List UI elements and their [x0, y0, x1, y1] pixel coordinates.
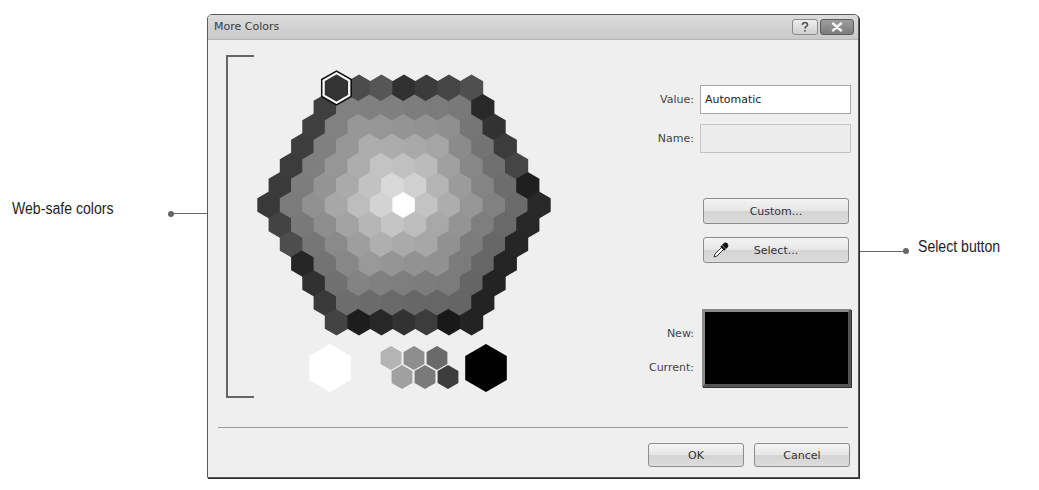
- ok-button-label: OK: [688, 449, 704, 462]
- callout-select-button: Select button: [918, 238, 1000, 256]
- gray-hex[interactable]: [392, 365, 413, 389]
- color-preview-swatch: [702, 309, 851, 387]
- value-label: Value:: [648, 93, 694, 106]
- more-colors-dialog: More Colors Value: Automatic Name: Custo…: [207, 14, 859, 478]
- custom-button-label: Custom...: [750, 205, 803, 218]
- name-label: Name:: [648, 132, 694, 145]
- callout-web-safe-colors: Web-safe colors: [12, 200, 113, 218]
- footer-divider: [218, 427, 848, 428]
- callout-right-dot: [903, 248, 909, 254]
- current-label: Current:: [628, 361, 694, 374]
- select-button[interactable]: Select...: [703, 237, 849, 263]
- select-button-label: Select...: [754, 244, 798, 257]
- gray-hex[interactable]: [404, 346, 425, 370]
- callout-left-dot: [168, 211, 174, 217]
- gray-hex[interactable]: [381, 346, 402, 370]
- value-field[interactable]: Automatic: [700, 85, 851, 114]
- cancel-button[interactable]: Cancel: [754, 443, 850, 467]
- name-field[interactable]: [700, 124, 851, 153]
- new-label: New:: [628, 327, 694, 340]
- custom-button[interactable]: Custom...: [703, 198, 849, 224]
- black-hex[interactable]: [465, 344, 507, 392]
- white-hex[interactable]: [309, 344, 351, 392]
- ok-button[interactable]: OK: [648, 443, 744, 467]
- eyedropper-icon: [712, 241, 730, 262]
- selected-color-hex[interactable]: [324, 73, 350, 103]
- gray-hex[interactable]: [415, 365, 436, 389]
- gray-hex[interactable]: [438, 365, 459, 389]
- cancel-button-label: Cancel: [783, 449, 820, 462]
- gray-hex[interactable]: [427, 346, 448, 370]
